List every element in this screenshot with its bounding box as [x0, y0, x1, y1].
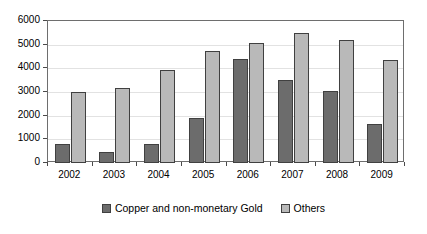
y-axis-tick-label: 3000 — [0, 86, 40, 96]
x-tick-mark — [47, 162, 48, 166]
x-axis-tick-label: 2009 — [360, 169, 404, 180]
y-axis-tick-label: 5000 — [0, 39, 40, 49]
legend-item: Copper and non-monetary Gold — [102, 203, 263, 214]
x-axis-tick-label: 2003 — [92, 169, 136, 180]
legend-swatch-icon — [281, 204, 290, 213]
bar-chart: 0100020003000400050006000 20022003200420… — [0, 0, 427, 234]
bar — [99, 152, 114, 163]
legend-label: Others — [294, 203, 326, 214]
x-axis-tick-label: 2005 — [181, 169, 225, 180]
x-tick-mark — [404, 162, 405, 166]
bar — [55, 144, 70, 163]
bar — [205, 51, 220, 163]
x-tick-mark — [226, 162, 227, 166]
bar — [71, 92, 86, 163]
x-axis-tick-label: 2002 — [47, 169, 91, 180]
y-tick-mark — [43, 91, 47, 92]
x-axis-tick-label: 2008 — [315, 169, 359, 180]
bar — [278, 80, 293, 163]
bar — [249, 43, 264, 163]
x-axis-tick-label: 2004 — [137, 169, 181, 180]
x-tick-mark — [136, 162, 137, 166]
x-axis-tick-label: 2006 — [226, 169, 270, 180]
plot-area — [47, 20, 404, 162]
y-axis-tick-label: 6000 — [0, 15, 40, 25]
y-axis-tick-label: 2000 — [0, 110, 40, 120]
bar — [323, 91, 338, 163]
y-axis-tick-label: 0 — [0, 157, 40, 167]
x-axis-tick-label: 2007 — [270, 169, 314, 180]
x-tick-mark — [359, 162, 360, 166]
bar — [160, 70, 175, 163]
bar — [144, 144, 159, 163]
legend-item: Others — [281, 203, 326, 214]
y-tick-mark — [43, 138, 47, 139]
bar — [339, 40, 354, 163]
legend-label: Copper and non-monetary Gold — [115, 203, 263, 214]
y-axis-tick-label: 1000 — [0, 133, 40, 143]
chart-legend: Copper and non-monetary GoldOthers — [0, 203, 427, 214]
bar — [189, 118, 204, 163]
y-tick-mark — [43, 44, 47, 45]
y-tick-mark — [43, 67, 47, 68]
y-axis-tick-label: 4000 — [0, 62, 40, 72]
bar — [367, 124, 382, 163]
bar — [383, 60, 398, 163]
legend-swatch-icon — [102, 204, 111, 213]
y-tick-mark — [43, 115, 47, 116]
bar — [294, 33, 309, 163]
y-tick-mark — [43, 20, 47, 21]
x-tick-mark — [92, 162, 93, 166]
x-tick-mark — [315, 162, 316, 166]
bar — [115, 88, 130, 163]
x-tick-mark — [181, 162, 182, 166]
x-tick-mark — [270, 162, 271, 166]
bar — [233, 59, 248, 163]
